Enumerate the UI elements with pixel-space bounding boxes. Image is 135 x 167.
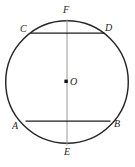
point-label-a: A: [12, 121, 18, 131]
circle-geometry-diagram: F C D O A B E: [0, 0, 135, 167]
point-label-d: D: [105, 23, 112, 33]
point-label-f: F: [63, 5, 69, 15]
center-point-marker: [64, 80, 67, 83]
point-label-c: C: [20, 24, 27, 34]
point-label-e: E: [64, 147, 70, 157]
point-label-b: B: [114, 119, 120, 129]
point-label-o: O: [70, 77, 77, 87]
